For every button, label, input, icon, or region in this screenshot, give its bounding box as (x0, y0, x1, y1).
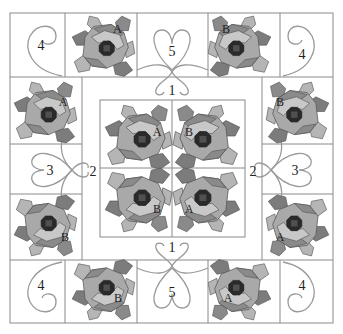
rose-label: B (153, 202, 161, 216)
rose-motif-icon (105, 105, 172, 169)
swirl-quilt-line (271, 140, 282, 200)
rose-label: A (113, 22, 123, 36)
rose-block (105, 168, 172, 232)
rose-motif-icon (266, 82, 329, 143)
rose-motif-icon (208, 16, 271, 76)
rose-motif-icon (173, 168, 240, 232)
rose-block (14, 195, 77, 256)
spiral-quilt-line (28, 26, 62, 76)
quilt-layout-diagram: A B A B B A B A A B B A 4 4 4 4 5 5 3 3 … (0, 0, 343, 334)
rose-block: A (72, 16, 135, 76)
rose-motif-icon (14, 82, 77, 143)
section-label-side: 3 (47, 163, 54, 178)
section-label-corner: 4 (299, 47, 306, 62)
swirl-quilt-line (137, 65, 208, 72)
swirl-quilt-line (137, 266, 208, 273)
quilting-lines (28, 26, 314, 312)
rose-label: B (114, 291, 122, 305)
section-label-sash: 2 (90, 164, 97, 179)
section-label-corner: 4 (38, 38, 45, 53)
section-label-corner: 4 (299, 278, 306, 293)
rose-block (266, 82, 329, 143)
section-label-corner: 4 (38, 278, 45, 293)
rose-block (105, 105, 172, 169)
rose-label: A (153, 125, 162, 139)
rose-label: A (224, 291, 233, 305)
rose-block (173, 105, 240, 169)
rose-block (266, 195, 329, 256)
swirl-quilt-line (72, 163, 88, 177)
rose-motif-icon (208, 260, 271, 320)
spiral-quilt-line (28, 262, 62, 312)
rose-label: B (185, 125, 193, 139)
rose-motif-icon (72, 260, 135, 320)
swirl-quilt-line (61, 140, 72, 200)
rose-label: B (222, 22, 230, 36)
section-label-sash: 2 (250, 164, 257, 179)
rose-block (208, 16, 271, 76)
rose-motif-icon (266, 195, 329, 256)
swirl-quilt-line (255, 163, 271, 177)
rose-label: B (276, 95, 284, 109)
rose-motif-icon (105, 168, 172, 232)
rose-motif-icon (173, 105, 240, 169)
rose-block (173, 168, 240, 232)
rose-block (14, 82, 77, 143)
rose-block (208, 260, 271, 320)
rose-motif-icon (72, 16, 135, 76)
section-label-sash: 1 (169, 240, 176, 255)
grid-lines (10, 13, 333, 323)
rose-label: B (61, 230, 69, 244)
rose-label: A (276, 230, 285, 244)
rose-label: A (185, 202, 194, 216)
section-label-sash: 1 (169, 83, 176, 98)
rose-motif-icon (14, 195, 77, 256)
rose-block (72, 260, 135, 320)
rose-label: A (59, 95, 68, 109)
section-label-heart: 5 (169, 285, 176, 300)
section-label-side: 3 (292, 163, 299, 178)
section-label-heart: 5 (169, 44, 176, 59)
